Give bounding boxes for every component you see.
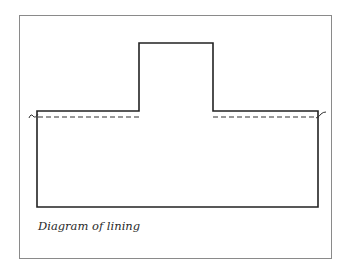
garment-outline: [37, 43, 318, 207]
figure-caption: Diagram of lining: [38, 219, 140, 233]
